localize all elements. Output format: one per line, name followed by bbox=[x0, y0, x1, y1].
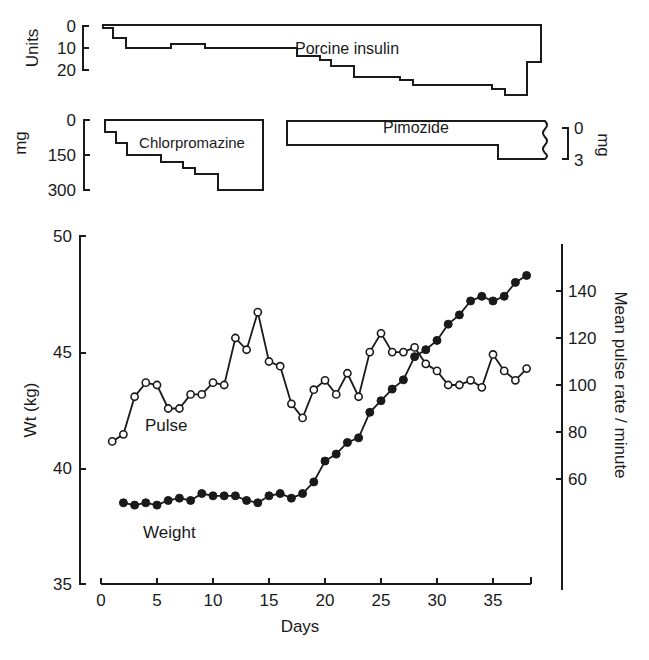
pulse-series-label: Pulse bbox=[145, 416, 188, 435]
y2-tick-label: 120 bbox=[568, 329, 596, 348]
x-tick-label: 0 bbox=[96, 591, 105, 610]
insulin-dose-outline bbox=[103, 25, 541, 95]
pulse-data-point bbox=[288, 400, 295, 407]
weight-data-point bbox=[265, 492, 273, 500]
weight-data-point bbox=[119, 499, 127, 507]
pulse-data-point bbox=[433, 367, 440, 374]
x-tick-label: 25 bbox=[372, 591, 391, 610]
weight-y-tick-labels: 35404550 bbox=[53, 227, 72, 594]
y2-tick-label: 100 bbox=[568, 376, 596, 395]
pulse-data-point bbox=[344, 370, 351, 377]
insulin-tick-20: 20 bbox=[57, 61, 76, 80]
pulse-data-point bbox=[187, 391, 194, 398]
x-tick-label: 20 bbox=[316, 591, 335, 610]
weight-data-point bbox=[220, 492, 228, 500]
pulse-data-point bbox=[221, 381, 228, 388]
pimo-tick-3: 3 bbox=[574, 151, 583, 170]
pimo-tick-0: 0 bbox=[574, 119, 583, 138]
pulse-data-point bbox=[321, 377, 328, 384]
pulse-data-point bbox=[456, 381, 463, 388]
y-tick-label: 50 bbox=[53, 227, 72, 246]
pulse-data-point bbox=[299, 414, 306, 421]
pimozide-title: Pimozide bbox=[383, 119, 449, 136]
weight-data-point bbox=[444, 320, 452, 328]
weight-data-point bbox=[455, 311, 463, 319]
chlor-tick-300: 300 bbox=[48, 181, 76, 200]
pulse-data-point bbox=[254, 309, 261, 316]
pulse-data-point bbox=[243, 346, 250, 353]
chlorpromazine-panel: 0 150 300 mg Chlorpromazine bbox=[11, 111, 263, 200]
pulse-data-point bbox=[310, 386, 317, 393]
weight-data-point bbox=[321, 457, 329, 465]
pulse-data-point bbox=[153, 381, 160, 388]
weight-data-point bbox=[198, 490, 206, 498]
pulse-data-point bbox=[209, 379, 216, 386]
pulse-data-point bbox=[501, 367, 508, 374]
weight-data-point bbox=[231, 492, 239, 500]
weight-data-point bbox=[422, 346, 430, 354]
pulse-data-point bbox=[489, 351, 496, 358]
pulse-data-point bbox=[120, 431, 127, 438]
insulin-y-label: Units bbox=[23, 29, 42, 68]
weight-data-point bbox=[175, 494, 183, 502]
chart-figure: 0 10 20 Units Porcine insulin 0 150 300 … bbox=[0, 0, 649, 660]
pulse-data-point bbox=[411, 344, 418, 351]
pulse-data-point bbox=[400, 349, 407, 356]
pulse-data-point bbox=[165, 405, 172, 412]
pulse-y-axis-label: Mean pulse rate / minute bbox=[611, 291, 630, 478]
y-tick-label: 45 bbox=[53, 343, 72, 362]
chlorpromazine-y-axis-bracket bbox=[84, 120, 90, 190]
y-tick-label: 40 bbox=[53, 459, 72, 478]
pulse-data-point bbox=[109, 438, 116, 445]
x-tick-label: 10 bbox=[204, 591, 223, 610]
weight-data-point bbox=[411, 353, 419, 361]
pulse-data-point bbox=[277, 363, 284, 370]
pulse-data-point bbox=[445, 381, 452, 388]
weight-data-point bbox=[511, 278, 519, 286]
insulin-panel: 0 10 20 Units Porcine insulin bbox=[23, 17, 541, 95]
weight-data-point bbox=[343, 438, 351, 446]
pimo-y-label: mg bbox=[594, 133, 613, 157]
weight-data-point bbox=[388, 385, 396, 393]
weight-data-point bbox=[310, 478, 318, 486]
weight-data-point bbox=[299, 490, 307, 498]
weight-data-point bbox=[131, 501, 139, 509]
weight-data-point bbox=[355, 434, 363, 442]
pimozide-y-axis-bracket bbox=[562, 128, 568, 159]
pulse-data-point bbox=[377, 330, 384, 337]
weight-data-point bbox=[164, 496, 172, 504]
pulse-data-point bbox=[366, 349, 373, 356]
weight-data-point bbox=[500, 292, 508, 300]
pulse-data-point bbox=[198, 391, 205, 398]
pulse-data-point bbox=[265, 358, 272, 365]
pulse-data-point bbox=[523, 365, 530, 372]
chlorpromazine-title: Chlorpromazine bbox=[139, 134, 245, 151]
weight-data-point bbox=[523, 271, 531, 279]
pulse-data-point bbox=[478, 384, 485, 391]
x-tick-label: 5 bbox=[152, 591, 161, 610]
weight-line bbox=[123, 275, 526, 505]
weight-data-point bbox=[287, 494, 295, 502]
weight-data-point bbox=[142, 499, 150, 507]
insulin-y-axis-bracket bbox=[83, 26, 89, 70]
weight-data-point bbox=[243, 496, 251, 504]
x-tick-label: 30 bbox=[428, 591, 447, 610]
pulse-data-point bbox=[389, 349, 396, 356]
x-tick-label: 35 bbox=[484, 591, 503, 610]
days-x-axis-label: Days bbox=[281, 617, 320, 636]
weight-series bbox=[119, 271, 530, 509]
weight-data-point bbox=[467, 297, 475, 305]
weight-data-point bbox=[489, 297, 497, 305]
chlorpromazine-dose-outline bbox=[105, 120, 263, 190]
weight-data-point bbox=[254, 499, 262, 507]
weight-data-point bbox=[366, 408, 374, 416]
chlor-tick-0: 0 bbox=[67, 111, 76, 130]
pulse-data-point bbox=[467, 377, 474, 384]
main-axes: 35404550 Wt (kg) 05101520253035 Days 608… bbox=[21, 227, 630, 636]
weight-data-point bbox=[153, 501, 161, 509]
pulse-data-point bbox=[512, 377, 519, 384]
insulin-title: Porcine insulin bbox=[295, 40, 399, 57]
weight-series-label: Weight bbox=[143, 523, 196, 542]
pulse-data-point bbox=[176, 405, 183, 412]
y2-tick-label: 60 bbox=[568, 470, 587, 489]
